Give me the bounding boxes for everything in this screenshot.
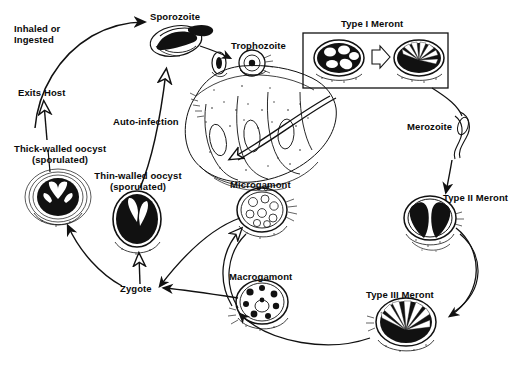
trophozoite-illustration [239,50,273,76]
label-inhaled-or-ingested: Inhaled or Ingested [14,24,60,45]
arrow-merozoite-reinvasion [232,96,330,158]
merozoite-illustration [454,112,470,159]
life-cycle-diagram: Inhaled or Ingested Exits Host Sporozoit… [0,0,518,373]
arrow-zygote-to-thin-walled [139,256,140,284]
label-exits-host: Exits Host [18,88,65,99]
label-zygote: Zygote [120,284,152,295]
transition-arrow-icon [372,46,390,68]
arrow-to-type-ii-meront [446,160,452,192]
thick-walled-oocyst-illustration [25,169,91,227]
label-trophozoite: Trophozoite [231,41,286,52]
arrow-microgamont-to-zygote [160,218,240,286]
label-merozoite: Merozoite [407,122,452,133]
label-macrogamont: Macrogamont [229,272,292,283]
microgamont-illustration [237,188,297,239]
arrow-exits-host [44,104,47,140]
arrow-type-ii-to-type-iii [450,228,476,316]
thin-walled-oocyst-illustration [113,191,161,255]
arrow-meront-to-merozoite [432,88,462,116]
label-auto-infection: Auto-infection [113,117,179,128]
type-iii-meront-illustration [366,298,436,352]
arrow-zygote-to-thick-walled [68,226,122,286]
label-type-i-meront: Type I Meront [341,19,403,30]
arrow-sporozoite-to-host [200,46,230,58]
host-epithelium-illustration [185,66,336,191]
type-i-meront-illustration-right [394,40,444,83]
label-thick-walled-oocyst: Thick-walled oocyst (sporulated) [14,144,106,165]
type-i-meront-illustration-left [314,40,364,83]
sporozoite-illustration [148,22,213,61]
arrow-merozoite-reinvasion-2 [238,98,336,160]
label-type-iii-meront: Type III Meront [366,290,434,301]
arrow-type-iii-to-gamonts [240,314,370,345]
label-microgamont: Microgamont [230,180,291,191]
arrow-macrogamont-to-zygote [164,288,238,298]
label-type-ii-meront: Type II Meront [443,193,508,204]
label-sporozoite: Sporozoite [150,12,200,23]
label-thin-walled-oocyst: Thin-walled oocyst (sporulated) [92,171,184,192]
type-ii-meront-illustration [404,196,464,252]
